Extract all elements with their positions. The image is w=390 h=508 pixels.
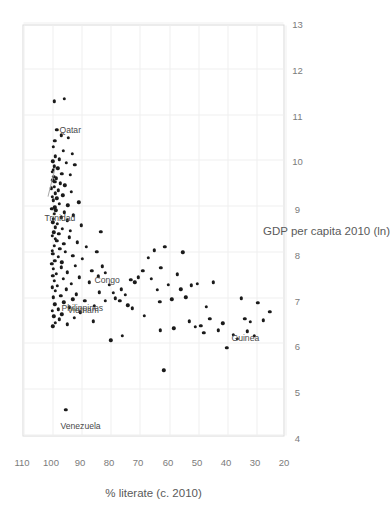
- data-point: [187, 319, 190, 322]
- gridline-horizontal: [227, 25, 228, 435]
- data-point: [51, 159, 54, 162]
- data-point: [52, 99, 55, 102]
- data-point: [50, 206, 53, 209]
- x-axis-title: % literate (c. 2010): [105, 486, 202, 498]
- data-point: [50, 262, 53, 265]
- y-axis-tick-label: 4: [294, 433, 299, 444]
- data-point: [55, 196, 58, 199]
- point-label-qatar: Qatar: [59, 124, 81, 134]
- data-point: [123, 292, 126, 295]
- data-point: [53, 154, 56, 157]
- data-point: [181, 250, 184, 253]
- data-point: [162, 368, 165, 371]
- gridline-horizontal: [198, 25, 199, 435]
- y-axis-tick-label: 12: [292, 64, 303, 75]
- data-point: [211, 280, 214, 283]
- gridline-vertical: [23, 388, 283, 389]
- y-axis-tick-label: 9: [294, 204, 299, 215]
- data-point: [221, 321, 224, 324]
- data-point: [59, 265, 62, 268]
- data-point: [146, 256, 149, 259]
- data-point: [90, 269, 93, 272]
- data-point: [54, 208, 57, 211]
- data-point: [71, 253, 74, 256]
- data-point: [193, 324, 196, 327]
- x-axis-tick-label: 50: [191, 457, 202, 468]
- data-point: [261, 318, 264, 321]
- gridline-horizontal: [23, 25, 24, 435]
- data-point: [55, 284, 58, 287]
- data-point: [71, 297, 74, 300]
- data-point: [52, 302, 55, 305]
- data-point: [111, 290, 114, 293]
- data-point: [53, 289, 56, 292]
- x-axis-tick-label: 70: [133, 457, 144, 468]
- x-axis-tick-label: 80: [104, 457, 115, 468]
- data-point: [204, 304, 207, 307]
- data-point: [54, 128, 57, 131]
- gridline-vertical: [23, 22, 283, 23]
- data-point: [60, 312, 63, 315]
- data-point: [109, 338, 112, 341]
- data-point: [162, 245, 165, 248]
- y-axis-tick-label: 7: [294, 296, 299, 307]
- x-axis-tick-label: 60: [162, 457, 173, 468]
- data-point: [75, 240, 78, 243]
- gridline-vertical: [23, 342, 283, 343]
- data-point: [53, 225, 56, 228]
- data-point: [120, 334, 123, 337]
- data-point: [50, 274, 53, 277]
- x-axis-tick-label: 30: [249, 457, 260, 468]
- data-point: [84, 245, 87, 248]
- data-point: [195, 281, 198, 284]
- data-point: [178, 287, 181, 290]
- data-point: [64, 160, 67, 163]
- x-axis-tick-label: 100: [43, 457, 59, 468]
- data-point: [57, 157, 60, 160]
- point-label-guinea: Guinea: [231, 332, 259, 342]
- data-point: [136, 275, 139, 278]
- data-point: [54, 176, 57, 179]
- data-point: [64, 287, 67, 290]
- data-point: [248, 320, 251, 323]
- data-point: [52, 139, 55, 142]
- data-point: [98, 230, 101, 233]
- data-point: [189, 283, 192, 286]
- data-point: [61, 242, 64, 245]
- data-point: [97, 290, 100, 293]
- data-point: [170, 297, 173, 300]
- data-point: [61, 277, 64, 280]
- data-point: [166, 282, 169, 285]
- data-point: [184, 295, 187, 298]
- x-axis-tick-label: 90: [74, 457, 85, 468]
- x-axis-tick-label: 40: [220, 457, 231, 468]
- data-point: [73, 263, 76, 266]
- data-point: [53, 320, 56, 323]
- data-point: [126, 303, 129, 306]
- point-label-venezuela: Venezuela: [60, 420, 100, 430]
- y-axis-tick-label: 8: [294, 250, 299, 261]
- data-point: [70, 151, 73, 154]
- data-point: [63, 183, 66, 186]
- data-point: [158, 328, 161, 331]
- data-point: [50, 324, 53, 327]
- data-point: [59, 260, 62, 263]
- data-point: [58, 181, 61, 184]
- x-axis-tick-label: 110: [14, 457, 29, 468]
- data-point: [57, 317, 60, 320]
- data-point: [87, 280, 90, 283]
- data-point: [53, 179, 56, 182]
- data-point: [256, 301, 259, 304]
- y-axis-tick-label: 5: [294, 387, 299, 398]
- gridline-horizontal: [81, 25, 82, 435]
- data-point: [68, 228, 71, 231]
- data-point: [152, 248, 155, 251]
- data-point: [202, 330, 205, 333]
- data-point: [51, 144, 54, 147]
- data-point: [50, 195, 53, 198]
- data-point: [56, 307, 59, 310]
- data-point: [66, 203, 69, 206]
- data-point: [69, 282, 72, 285]
- data-point: [58, 247, 61, 250]
